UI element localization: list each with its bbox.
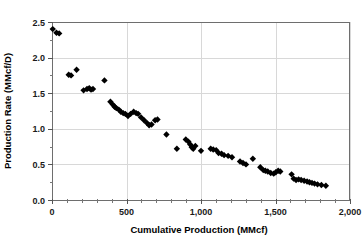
x-tick-label: 0 (49, 207, 54, 217)
tick-marks-layer (48, 23, 351, 205)
y-tick-label: 1.0 (32, 124, 45, 134)
x-axis-title: Cumulative Production (MMcf) (130, 224, 267, 235)
y-tick-label: 2.0 (32, 53, 45, 63)
x-tick-label: 500 (119, 207, 134, 217)
y-axis-title: Production Rate (MMcf/D) (2, 53, 13, 169)
x-tick-label: 1,000 (190, 207, 213, 217)
data-point-marker (174, 146, 180, 152)
data-point-marker (73, 67, 79, 73)
y-axis-tick-labels: 0.00.51.01.52.02.5 (32, 18, 45, 206)
data-point-marker (250, 156, 256, 162)
x-tick-label: 2,000 (339, 207, 362, 217)
data-point-marker (198, 148, 204, 154)
y-tick-label: 2.5 (32, 18, 45, 28)
y-tick-label: 1.5 (32, 89, 45, 99)
y-tick-label: 0.5 (32, 160, 45, 170)
chart-container: 05001,0001,5002,000 0.00.51.01.52.02.5 C… (0, 0, 364, 242)
data-point-marker (101, 77, 107, 83)
x-axis-tick-labels: 05001,0001,5002,000 (49, 207, 361, 217)
y-tick-label: 0.0 (32, 196, 45, 206)
grid-layer (52, 22, 351, 201)
data-point-marker (323, 183, 329, 189)
scatter-plot-svg: 05001,0001,5002,000 0.00.51.01.52.02.5 C… (0, 0, 364, 242)
x-tick-label: 1,500 (264, 207, 287, 217)
data-point-marker (163, 131, 169, 137)
